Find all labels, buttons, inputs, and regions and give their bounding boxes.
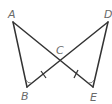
label-b: B (21, 90, 29, 103)
angle-mark-e (89, 80, 94, 83)
label-d: D (104, 8, 112, 21)
label-c: C (56, 44, 64, 57)
geometry-diagram: A D C B E (0, 0, 112, 104)
label-a: A (7, 8, 16, 21)
label-e: E (90, 91, 97, 104)
